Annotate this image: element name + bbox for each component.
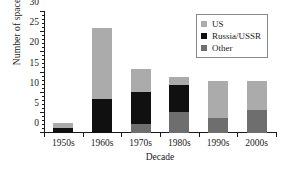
bar-segment[interactable] — [169, 85, 189, 112]
legend-swatch-icon — [201, 45, 207, 51]
y-tick-minor — [42, 116, 45, 117]
y-tick-label: 15 — [30, 58, 40, 68]
bar-segment[interactable] — [92, 99, 112, 133]
legend-label: Other — [212, 44, 233, 53]
y-tick-minor — [42, 124, 45, 125]
x-tick — [237, 132, 238, 137]
legend-swatch-icon — [201, 21, 207, 27]
bar-segment[interactable] — [92, 28, 112, 99]
legend-label: Russia/USSR — [212, 32, 261, 41]
legend-item[interactable]: US — [201, 18, 261, 30]
y-tick-minor — [42, 128, 45, 129]
bar-stack[interactable] — [208, 81, 228, 133]
x-tick-label: 1980s — [168, 138, 191, 148]
y-axis-title: Number of spacecraft — [12, 0, 22, 78]
y-tick-label: 25 — [30, 17, 40, 27]
x-tick — [199, 132, 200, 137]
legend-item[interactable]: Russia/USSR — [201, 30, 261, 42]
bar-segment[interactable] — [169, 77, 189, 85]
y-tick-minor — [42, 80, 45, 81]
y-tick-minor — [42, 108, 45, 109]
bar-stack[interactable] — [169, 77, 189, 133]
y-tick-major — [40, 51, 45, 52]
x-tick-label: 2000s — [245, 138, 268, 148]
y-tick-major — [40, 112, 45, 113]
bar-segment[interactable] — [247, 110, 267, 133]
y-tick-minor — [42, 76, 45, 77]
y-tick-minor — [42, 35, 45, 36]
y-tick-label: 10 — [30, 78, 40, 88]
x-tick — [121, 132, 122, 137]
y-tick-minor — [42, 120, 45, 121]
y-tick-minor — [42, 104, 45, 105]
y-tick-minor — [42, 47, 45, 48]
legend-item[interactable]: Other — [201, 42, 261, 54]
y-tick-minor — [42, 100, 45, 101]
y-tick-minor — [42, 67, 45, 68]
y-tick-major — [40, 72, 45, 73]
bar-segment[interactable] — [247, 81, 267, 111]
legend-label: US — [212, 20, 224, 29]
y-tick-minor — [42, 88, 45, 89]
bar-segment[interactable] — [208, 81, 228, 119]
x-tick-label: 1960s — [91, 138, 114, 148]
y-tick-minor — [42, 55, 45, 56]
x-tick-label: 1970s — [129, 138, 152, 148]
y-tick-label: 20 — [30, 37, 40, 47]
x-tick-label: 1990s — [207, 138, 230, 148]
bar-segment[interactable] — [131, 92, 151, 124]
legend-swatch-icon — [201, 33, 207, 39]
x-tick-label: 1950s — [52, 138, 75, 148]
y-tick-minor — [42, 84, 45, 85]
y-tick-label: 30 — [30, 0, 40, 7]
x-tick — [83, 132, 84, 137]
chart-legend: USRussia/USSROther — [196, 14, 268, 58]
y-tick-minor — [42, 27, 45, 28]
bar-segment[interactable] — [53, 128, 73, 133]
y-tick-label: 0 — [34, 118, 39, 128]
y-tick-minor — [42, 43, 45, 44]
y-tick-minor — [42, 59, 45, 60]
x-tick — [160, 132, 161, 137]
x-axis-title: Decade — [44, 152, 276, 162]
bar-segment[interactable] — [208, 118, 228, 133]
y-tick-major — [40, 92, 45, 93]
bar-segment[interactable] — [169, 112, 189, 133]
y-tick-label: 5 — [34, 98, 39, 108]
y-tick-minor — [42, 63, 45, 64]
bar-stack[interactable] — [247, 81, 267, 133]
bar-stack[interactable] — [53, 123, 73, 133]
y-tick-minor — [42, 23, 45, 24]
y-tick-minor — [42, 19, 45, 20]
bar-stack[interactable] — [131, 69, 151, 134]
y-tick-minor — [42, 96, 45, 97]
bar-stack[interactable] — [92, 28, 112, 133]
x-tick — [44, 132, 45, 137]
y-tick-minor — [42, 15, 45, 16]
spacecraft-by-decade-chart: Number of spacecraft 051015202530 1950s1… — [0, 0, 287, 173]
y-tick-minor — [42, 39, 45, 40]
x-tick — [276, 132, 277, 137]
y-tick-major — [40, 11, 45, 12]
bar-segment[interactable] — [131, 69, 151, 93]
y-tick-major — [40, 31, 45, 32]
bar-segment[interactable] — [131, 124, 151, 133]
